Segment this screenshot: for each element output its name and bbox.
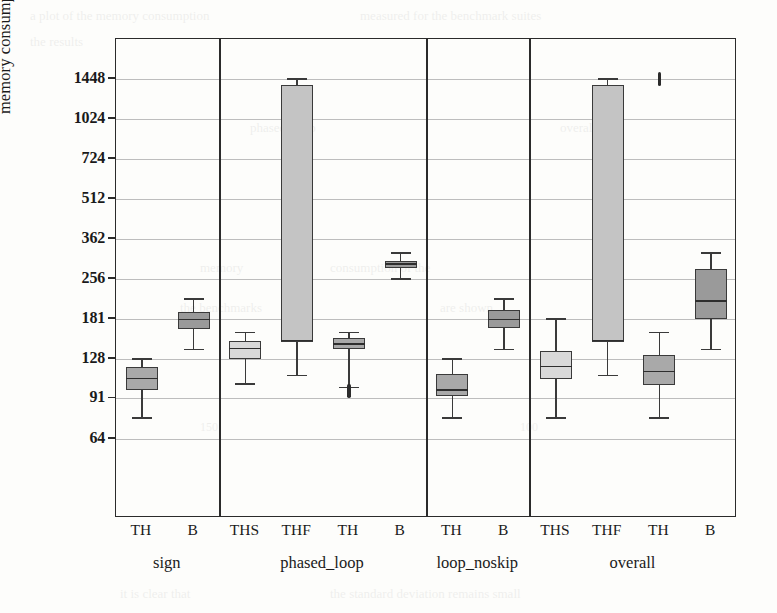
whisker-cap-upper (701, 252, 721, 254)
whisker-upper (659, 333, 661, 355)
x-sub-label: TH (648, 521, 669, 539)
box-iqr (592, 85, 624, 342)
x-sub-label: B (394, 521, 404, 539)
y-tick-label: 1448 (47, 69, 105, 87)
x-sub-label: THF (592, 521, 621, 539)
y-tick-label: 181 (47, 309, 105, 327)
whisker-cap-upper (132, 358, 152, 360)
group-separator (219, 39, 221, 516)
whisker-upper (141, 359, 143, 367)
x-group-label: overall (610, 553, 656, 573)
median-line (695, 300, 727, 302)
y-axis-title: memory consumption [MiB] (0, 0, 15, 168)
whisker-upper (503, 299, 505, 310)
x-sub-label: THF (281, 521, 310, 539)
whisker-cap-upper (339, 332, 359, 334)
whisker-cap-upper (287, 78, 307, 80)
median-line (229, 348, 261, 350)
box-iqr (695, 269, 727, 319)
box-iqr (436, 374, 468, 395)
whisker-cap-lower (184, 349, 204, 351)
x-sub-label: TH (338, 521, 359, 539)
whisker-cap-lower (701, 349, 721, 351)
whisker-lower (710, 319, 712, 349)
whisker-lower (348, 349, 350, 387)
median-line (385, 263, 417, 265)
whisker-cap-lower (391, 278, 411, 280)
group-separator (426, 39, 428, 516)
group-separator (529, 39, 531, 516)
box-iqr (178, 312, 210, 329)
x-sub-label: B (187, 521, 197, 539)
whisker-cap-upper (494, 298, 514, 300)
x-sub-label: TH (131, 521, 152, 539)
y-tick-label: 128 (47, 349, 105, 367)
median-line (540, 366, 572, 368)
whisker-upper (400, 253, 402, 260)
whisker-cap-lower (442, 417, 462, 419)
whisker-lower (141, 390, 143, 418)
median-line (126, 378, 158, 380)
whisker-cap-lower (494, 349, 514, 351)
outlier-marker (347, 384, 350, 398)
box-iqr (281, 85, 313, 342)
y-tick-mark (108, 237, 115, 238)
y-tick-mark (108, 277, 115, 278)
x-group-label: phased_loop (280, 553, 363, 573)
y-tick-label: 362 (47, 229, 105, 247)
whisker-cap-upper (391, 252, 411, 254)
y-tick-mark (108, 357, 115, 358)
median-line (488, 319, 520, 321)
whisker-cap-upper (235, 332, 255, 334)
y-tick-label: 724 (47, 149, 105, 167)
x-group-label: sign (153, 553, 181, 573)
whisker-upper (245, 333, 247, 341)
y-tick-mark (108, 317, 115, 318)
x-group-label: loop_noskip (436, 553, 518, 573)
whisker-cap-upper (184, 298, 204, 300)
whisker-cap-upper (649, 332, 669, 334)
whisker-cap-lower (287, 375, 307, 377)
whisker-upper (555, 319, 557, 351)
whisker-lower (659, 385, 661, 417)
y-tick-label: 1024 (47, 109, 105, 127)
median-line (281, 340, 313, 342)
x-sub-label: TH (441, 521, 462, 539)
y-tick-mark (108, 437, 115, 438)
whisker-cap-upper (442, 358, 462, 360)
median-line (333, 343, 365, 345)
whisker-lower (503, 328, 505, 350)
whisker-cap-lower (598, 375, 618, 377)
median-line (178, 319, 210, 321)
whisker-lower (452, 396, 454, 418)
whisker-cap-lower (546, 417, 566, 419)
whisker-lower (296, 342, 298, 375)
plot-area (115, 38, 736, 517)
y-tick-label: 512 (47, 189, 105, 207)
outlier-marker (658, 72, 661, 86)
y-tick-mark (108, 117, 115, 118)
x-sub-label: B (498, 521, 508, 539)
x-sub-label: B (705, 521, 715, 539)
whisker-upper (193, 299, 195, 312)
whisker-cap-upper (598, 78, 618, 80)
whisker-cap-lower (132, 417, 152, 419)
whisker-lower (245, 359, 247, 384)
x-sub-label: THS (230, 521, 259, 539)
whisker-cap-lower (649, 417, 669, 419)
box-iqr (229, 341, 261, 359)
y-tick-label: 256 (47, 269, 105, 287)
y-tick-label: 91 (47, 388, 105, 406)
whisker-cap-lower (235, 383, 255, 385)
y-tick-mark (108, 397, 115, 398)
whisker-lower (607, 342, 609, 375)
whisker-lower (555, 379, 557, 418)
whisker-upper (452, 359, 454, 374)
x-sub-label: THS (540, 521, 569, 539)
median-line (643, 371, 675, 373)
y-tick-mark (108, 157, 115, 158)
median-line (436, 389, 468, 391)
boxplot-chart: memory consumption [MiB] 144810247245123… (0, 0, 777, 613)
y-tick-label: 64 (47, 429, 105, 447)
median-line (592, 340, 624, 342)
